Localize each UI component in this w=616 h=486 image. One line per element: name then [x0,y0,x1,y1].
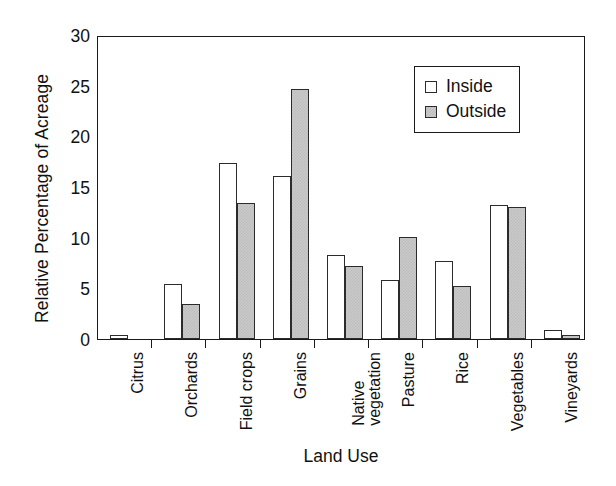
bar-inside [164,284,182,339]
x-axis-category-label: Pasture [401,352,417,407]
x-axis-category-label: Rice [455,352,471,384]
y-axis-tick-label: 25 [44,76,90,97]
open-square-swatch-icon [425,81,437,93]
bar-inside [381,280,399,339]
bar-inside [219,163,237,339]
bar-inside [490,205,508,339]
x-axis-tick-mark [205,340,206,348]
y-axis-tick-label: 10 [44,228,90,249]
x-axis-category-label: Native vegetation [351,352,384,426]
x-axis-category-label: Vegetables [510,352,526,431]
bar-inside [327,255,345,339]
bar-outside [182,304,200,339]
bar-outside [345,266,363,339]
bar-outside [508,207,526,339]
bar-chart: Relative Percentage of Acreage 051015202… [0,0,616,486]
bar-inside [544,330,562,339]
legend-label-outside: Outside [446,101,506,122]
legend: Inside Outside [414,66,520,133]
legend-label-inside: Inside [446,76,493,97]
bar-outside [237,203,255,339]
x-axis-title: Land Use [97,446,585,467]
legend-entry-outside: Outside [425,99,506,124]
y-axis-tick-label: 30 [44,26,90,47]
x-axis-tick-mark [477,340,478,348]
x-axis-category-label: Orchards [184,352,200,418]
y-axis-tick-label: 15 [44,178,90,199]
bar-inside [110,335,128,339]
bar-outside [453,286,471,339]
bar-outside [399,237,417,339]
y-axis-tick-label: 5 [44,279,90,300]
x-axis-tick-mark [151,340,152,348]
bar-inside [435,261,453,339]
x-axis-category-label: Citrus [130,352,146,394]
legend-entry-inside: Inside [425,74,506,99]
bar-inside [273,176,291,339]
x-axis-category-label: Grains [293,352,309,399]
x-axis-tick-mark [260,340,261,348]
x-axis-category-label: Field crops [239,352,255,430]
bar-outside [291,89,309,339]
x-axis-tick-mark [368,340,369,348]
x-axis-category-label: Vineyards [564,352,580,423]
x-axis-tick-mark [314,340,315,348]
filled-square-swatch-icon [425,106,437,118]
y-axis-tick-label: 20 [44,127,90,148]
x-axis-tick-mark [422,340,423,348]
x-axis-tick-mark [531,340,532,348]
bar-outside [562,335,580,339]
y-axis-tick-label: 0 [44,330,90,351]
